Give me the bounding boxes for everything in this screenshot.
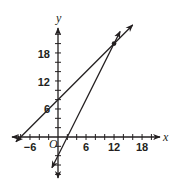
x-tick-label: 6 xyxy=(83,141,89,153)
x-axis-label: x xyxy=(162,130,169,144)
origin-label: O xyxy=(49,137,58,151)
y-tick-label: 18 xyxy=(38,48,50,60)
y-axis-label: y xyxy=(55,11,62,25)
x-tick-label: 18 xyxy=(136,141,148,153)
intersection-point xyxy=(112,41,117,46)
coordinate-plane: x y O −6 6 12 18 6 12 18 xyxy=(0,0,172,183)
y-tick-label: 12 xyxy=(38,76,50,88)
x-tick-label: 12 xyxy=(108,141,120,153)
x-tick-label: −6 xyxy=(24,141,37,153)
y-tick-label: 6 xyxy=(44,103,50,115)
